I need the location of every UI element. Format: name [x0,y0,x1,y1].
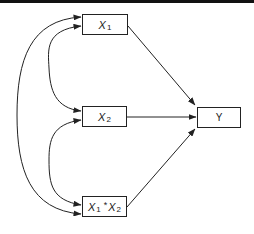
covariance-x1-x2 [48,26,81,111]
node-x1x2-interaction: X1*X2 [82,196,127,217]
node-x1x2-subscript-b: 2 [117,205,121,214]
covariance-x2-x1x2 [49,120,81,205]
node-y-label: Y [216,112,223,123]
edge-x1-to-y [128,26,195,105]
node-y: Y [197,107,241,128]
node-x1: X1 [82,14,128,35]
node-x2-label: X [98,111,105,123]
node-x1-label: X [99,19,106,31]
node-x1x2-operator: * [104,200,108,210]
node-x1x2-subscript-a: 1 [96,205,100,214]
node-x2-subscript: 2 [106,115,110,124]
edge-x1x2-to-y [127,129,195,207]
node-x1x2-label-b: X [108,201,115,213]
node-x1-subscript: 1 [107,23,111,32]
node-x1x2-label-a: X [88,201,95,213]
node-x2: X2 [82,106,127,127]
